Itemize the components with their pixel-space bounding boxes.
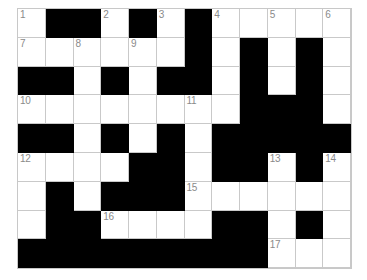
- crossword-cell[interactable]: [185, 211, 213, 240]
- crossword-cell[interactable]: [323, 182, 351, 211]
- crossword-block: [185, 38, 213, 67]
- crossword-cell[interactable]: [18, 182, 46, 211]
- crossword-cell[interactable]: 15: [185, 182, 213, 211]
- crossword-block: [46, 67, 74, 96]
- crossword-cell[interactable]: [101, 95, 129, 124]
- clue-number: 16: [103, 211, 114, 223]
- crossword-cell[interactable]: [212, 95, 240, 124]
- crossword-cell[interactable]: [185, 153, 213, 182]
- crossword-cell[interactable]: [74, 95, 102, 124]
- crossword-block: [296, 211, 324, 240]
- crossword-cell[interactable]: [268, 67, 296, 96]
- crossword-block: [46, 124, 74, 153]
- crossword-cell[interactable]: [129, 95, 157, 124]
- crossword-cell[interactable]: 11: [185, 95, 213, 124]
- crossword-puzzle-container: 1234567891011121314151617: [0, 0, 367, 280]
- clue-number: 10: [20, 95, 31, 107]
- crossword-cell[interactable]: [157, 211, 185, 240]
- crossword-cell[interactable]: [74, 182, 102, 211]
- crossword-block: [296, 38, 324, 67]
- crossword-cell[interactable]: 2: [101, 9, 129, 38]
- crossword-block: [101, 182, 129, 211]
- crossword-grid[interactable]: 1234567891011121314151617: [17, 8, 352, 269]
- crossword-cell[interactable]: 4: [212, 9, 240, 38]
- crossword-cell[interactable]: [46, 95, 74, 124]
- crossword-cell[interactable]: 10: [18, 95, 46, 124]
- clue-number: 5: [270, 9, 275, 21]
- crossword-cell[interactable]: [129, 211, 157, 240]
- crossword-cell[interactable]: [240, 182, 268, 211]
- crossword-block: [185, 67, 213, 96]
- crossword-block: [46, 211, 74, 240]
- crossword-cell[interactable]: [101, 153, 129, 182]
- crossword-cell[interactable]: 13: [268, 153, 296, 182]
- crossword-cell[interactable]: 5: [268, 9, 296, 38]
- crossword-block: [74, 9, 102, 38]
- crossword-block: [18, 67, 46, 96]
- crossword-block: [296, 95, 324, 124]
- crossword-block: [212, 124, 240, 153]
- crossword-block: [46, 9, 74, 38]
- crossword-cell[interactable]: [268, 182, 296, 211]
- crossword-cell[interactable]: 6: [323, 9, 351, 38]
- crossword-cell[interactable]: [323, 211, 351, 240]
- crossword-cell[interactable]: [268, 211, 296, 240]
- crossword-cell[interactable]: [323, 95, 351, 124]
- crossword-cell[interactable]: 7: [18, 38, 46, 67]
- crossword-cell[interactable]: [74, 67, 102, 96]
- crossword-cell[interactable]: [296, 182, 324, 211]
- crossword-cell[interactable]: 17: [268, 239, 296, 268]
- crossword-cell[interactable]: [185, 124, 213, 153]
- crossword-cell[interactable]: [323, 239, 351, 268]
- clue-number: 12: [20, 153, 31, 165]
- crossword-cell[interactable]: [129, 124, 157, 153]
- crossword-cell[interactable]: [323, 38, 351, 67]
- crossword-cell[interactable]: [74, 124, 102, 153]
- crossword-cell[interactable]: [157, 95, 185, 124]
- crossword-block: [240, 67, 268, 96]
- crossword-block: [101, 239, 129, 268]
- crossword-cell[interactable]: [74, 153, 102, 182]
- crossword-cell[interactable]: [212, 182, 240, 211]
- crossword-block: [296, 67, 324, 96]
- crossword-cell[interactable]: 12: [18, 153, 46, 182]
- crossword-cell[interactable]: [296, 239, 324, 268]
- clue-number: 6: [325, 9, 330, 21]
- crossword-cell[interactable]: [101, 38, 129, 67]
- crossword-cell[interactable]: [18, 211, 46, 240]
- clue-number: 15: [187, 182, 198, 194]
- crossword-cell[interactable]: [268, 38, 296, 67]
- clue-number: 13: [270, 153, 281, 165]
- crossword-cell[interactable]: 8: [74, 38, 102, 67]
- clue-number: 11: [187, 95, 197, 107]
- clue-number: 14: [325, 153, 336, 165]
- crossword-block: [101, 124, 129, 153]
- crossword-block: [129, 182, 157, 211]
- crossword-cell[interactable]: 14: [323, 153, 351, 182]
- crossword-block: [212, 153, 240, 182]
- crossword-cell[interactable]: [212, 38, 240, 67]
- clue-number: 17: [270, 239, 281, 251]
- clue-number: 8: [76, 38, 81, 50]
- crossword-cell[interactable]: 1: [18, 9, 46, 38]
- crossword-cell[interactable]: [240, 9, 268, 38]
- crossword-block: [74, 211, 102, 240]
- crossword-cell[interactable]: [46, 38, 74, 67]
- crossword-block: [74, 239, 102, 268]
- crossword-cell[interactable]: [323, 67, 351, 96]
- crossword-block: [268, 95, 296, 124]
- crossword-block: [157, 153, 185, 182]
- crossword-block: [185, 239, 213, 268]
- crossword-cell[interactable]: 3: [157, 9, 185, 38]
- crossword-cell[interactable]: [212, 67, 240, 96]
- crossword-cell[interactable]: 9: [129, 38, 157, 67]
- crossword-block: [157, 239, 185, 268]
- crossword-cell[interactable]: [296, 9, 324, 38]
- crossword-cell[interactable]: [157, 38, 185, 67]
- crossword-cell[interactable]: [129, 67, 157, 96]
- crossword-block: [129, 153, 157, 182]
- crossword-block: [18, 239, 46, 268]
- crossword-cell[interactable]: [46, 153, 74, 182]
- crossword-cell[interactable]: 16: [101, 211, 129, 240]
- crossword-block: [240, 124, 268, 153]
